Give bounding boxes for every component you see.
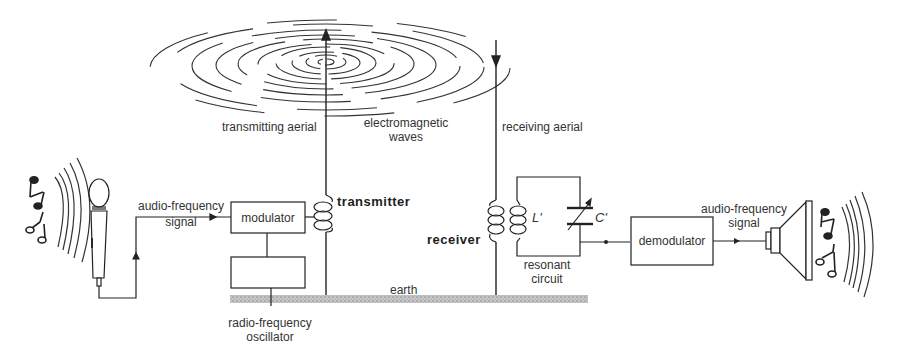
radio-diagram — [0, 0, 897, 354]
audio-in-line2: signal — [131, 215, 231, 229]
em-waves-line1: electromagnetic — [356, 116, 456, 130]
transmitting-aerial-label: transmitting aerial — [222, 120, 317, 134]
music-notes-out-icon — [816, 209, 836, 277]
transmitter-label: transmitter — [337, 195, 410, 209]
oscillator-box — [231, 257, 305, 288]
sound-waves-out-icon — [842, 192, 873, 297]
audio-out-line2: signal — [694, 216, 794, 230]
sound-waves-in-icon — [55, 158, 90, 262]
receiver-label: receiver — [427, 233, 481, 247]
receiver-coil-icon — [488, 200, 504, 242]
resonant-circuit-label: resonant circuit — [512, 258, 582, 286]
resonant-line2: circuit — [512, 272, 582, 286]
transmitter-coil-icon — [314, 195, 332, 232]
electromagnetic-waves-label: electromagnetic waves — [356, 116, 456, 144]
audio-in-line1: audio-frequency — [131, 199, 231, 213]
inductor-l-icon — [510, 206, 526, 234]
oscillator-label: radio-frequency oscillator — [220, 316, 320, 344]
audio-out-line1: audio-frequency — [694, 202, 794, 216]
inductor-label: L' — [532, 211, 542, 225]
audio-out-label: audio-frequency signal — [694, 202, 794, 230]
transmitting-aerial — [322, 30, 330, 296]
microphone-icon — [89, 179, 109, 286]
capacitor-label: C' — [595, 211, 607, 225]
em-waves-line2: waves — [356, 130, 456, 144]
receiving-aerial-label: receiving aerial — [502, 120, 583, 134]
music-notes-in-icon — [26, 177, 46, 243]
audio-in-label: audio-frequency signal — [131, 199, 231, 229]
oscillator-line2: oscillator — [220, 330, 320, 344]
modulator-label: modulator — [231, 211, 305, 225]
electromagnetic-waves — [150, 20, 510, 116]
demodulator-label: demodulator — [631, 234, 713, 248]
earth-label: earth — [390, 283, 417, 297]
receiving-aerial — [492, 40, 500, 296]
resonant-circuit — [510, 177, 630, 256]
oscillator-line1: radio-frequency — [220, 316, 320, 330]
resonant-line1: resonant — [512, 258, 582, 272]
